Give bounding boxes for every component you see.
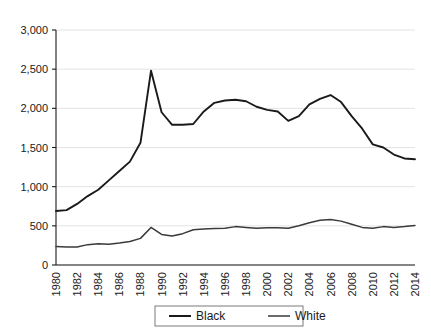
- x-tick-label: 1994: [198, 272, 210, 296]
- x-tick-label: 1998: [240, 272, 252, 296]
- legend-label-black: Black: [196, 309, 226, 323]
- chart-svg: 05001,0001,5002,0002,5003,000 1980198219…: [0, 0, 431, 336]
- x-tick-label: 1980: [50, 272, 62, 296]
- y-tick-label: 1,000: [20, 181, 48, 193]
- chart-legend: BlackWhite: [155, 306, 326, 326]
- y-tick-label: 2,500: [20, 63, 48, 75]
- x-tick-label: 1996: [219, 272, 231, 296]
- x-tick-label: 2000: [261, 272, 273, 296]
- x-tick-label: 1986: [113, 272, 125, 296]
- x-tick-label: 1988: [134, 272, 146, 296]
- x-tick-label: 2002: [282, 272, 294, 296]
- y-tick-label: 2,000: [20, 102, 48, 114]
- y-tick-marks: [52, 30, 56, 265]
- x-tick-label: 1984: [92, 272, 104, 296]
- x-tick-labels: 1980198219841986198819901992199419961998…: [50, 272, 421, 296]
- x-tick-label: 1990: [156, 272, 168, 296]
- y-tick-label: 0: [42, 259, 48, 271]
- y-tick-label: 1,500: [20, 142, 48, 154]
- series-line-black: [56, 71, 415, 211]
- x-tick-label: 2006: [325, 272, 337, 296]
- y-tick-label: 500: [30, 220, 48, 232]
- x-tick-label: 2010: [367, 272, 379, 296]
- data-series: [56, 71, 415, 247]
- series-line-white: [56, 220, 415, 247]
- gridlines: [56, 30, 415, 265]
- y-tick-labels: 05001,0001,5002,0002,5003,000: [20, 24, 48, 271]
- x-tick-label: 1982: [71, 272, 83, 296]
- x-tick-label: 2004: [303, 272, 315, 296]
- y-tick-label: 3,000: [20, 24, 48, 36]
- x-tick-label: 1992: [177, 272, 189, 296]
- x-tick-label: 2014: [409, 272, 421, 296]
- x-tick-label: 2008: [346, 272, 358, 296]
- line-chart: 05001,0001,5002,0002,5003,000 1980198219…: [0, 0, 431, 336]
- legend-label-white: White: [295, 309, 326, 323]
- x-tick-label: 2012: [388, 272, 400, 296]
